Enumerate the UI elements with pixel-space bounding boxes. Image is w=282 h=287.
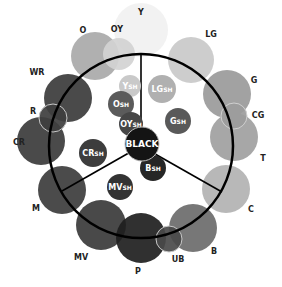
shade-label: LGSH bbox=[151, 85, 172, 94]
shade-label: OSH bbox=[113, 100, 129, 109]
label-oy: OY bbox=[111, 25, 124, 34]
label-cr: CR bbox=[13, 138, 25, 147]
circle-m bbox=[38, 166, 86, 214]
center-black-circle: BLACK bbox=[125, 127, 160, 161]
label-c: C bbox=[248, 205, 254, 214]
shade-circle-crsh: CRSH bbox=[79, 139, 107, 167]
shade-label: CRSH bbox=[82, 149, 103, 158]
label-mv: MV bbox=[74, 253, 89, 262]
label-wr: WR bbox=[30, 68, 45, 77]
label-m: M bbox=[32, 204, 40, 213]
label-o: O bbox=[80, 26, 87, 35]
shade-label: GSH bbox=[170, 117, 186, 126]
color-wheel-diagram: YSHOSHLGSHOYSHGSHCRSHBSHMVSH BLACK YMVPO… bbox=[0, 0, 282, 287]
label-r: R bbox=[30, 107, 36, 116]
shade-label: MVSH bbox=[108, 183, 132, 192]
shade-label: YSH bbox=[121, 82, 137, 91]
shade-circle-lgsh: LGSH bbox=[148, 75, 176, 103]
shade-circle-gsh: GSH bbox=[165, 108, 191, 134]
shade-label: BSH bbox=[145, 164, 160, 173]
label-cg: CG bbox=[252, 111, 264, 120]
label-p: P bbox=[135, 267, 141, 276]
label-y: Y bbox=[137, 8, 144, 17]
black-label: BLACK bbox=[125, 139, 159, 149]
circle-c bbox=[202, 165, 250, 213]
label-b: B bbox=[211, 247, 217, 256]
label-ub: UB bbox=[172, 255, 185, 264]
label-g: G bbox=[251, 76, 258, 85]
label-t: T bbox=[260, 154, 266, 163]
shade-circle-mvsh: MVSH bbox=[107, 174, 133, 200]
label-lg: LG bbox=[205, 30, 217, 39]
